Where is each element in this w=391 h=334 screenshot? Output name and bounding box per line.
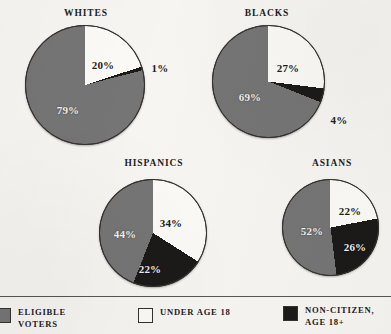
slice-label-under-18: 20% <box>92 59 115 71</box>
slice-label-eligible-voters: 52% <box>301 225 324 237</box>
pie-blacks: 27% 69% <box>212 25 325 138</box>
slice-label-non-citizen: 1% <box>152 62 169 74</box>
legend-swatch-black <box>283 306 298 321</box>
legend-label-under-age-18: UNDER AGE 18 <box>160 307 231 319</box>
legend-swatch-gray <box>0 308 11 323</box>
slice-label-under-18: 27% <box>277 62 300 74</box>
pie-slices-asians <box>282 179 379 276</box>
legend-label-non-citizen: NON-CITIZEN, AGE 18+ <box>305 305 374 328</box>
slice-label-under-18: 22% <box>339 205 362 217</box>
legend-label-eligible-voters: ELIGIBLE VOTERS <box>18 307 66 330</box>
legend-item-eligible-voters: ELIGIBLE VOTERS <box>0 307 66 330</box>
slice-label-under-18: 34% <box>160 217 183 229</box>
pie-slices-blacks <box>212 25 325 138</box>
chart-title-whites: WHITES <box>25 8 147 18</box>
pie-whites: 20% 79% <box>25 25 145 145</box>
slice-label-eligible-voters: 44% <box>114 228 137 240</box>
pie-slices-whites <box>25 25 145 145</box>
chart-title-blacks: BLACKS <box>206 8 328 18</box>
slice-label-eligible-voters: 69% <box>239 91 262 103</box>
pie-chart-asians: ASIANS 22% 26% 52% <box>282 158 382 286</box>
demographic-pie-chart-figure: WHITES 20% 79% 1% BLACKS 27% 69% 4% HISP… <box>0 0 391 334</box>
slice-label-non-citizen: 26% <box>344 241 367 253</box>
chart-title-asians: ASIANS <box>282 158 382 168</box>
pie-asians: 22% 26% 52% <box>282 179 379 276</box>
legend-swatch-white <box>138 308 153 323</box>
pie-chart-whites: WHITES 20% 79% 1% <box>25 6 147 148</box>
legend-item-under-age-18: UNDER AGE 18 <box>138 307 231 323</box>
pie-chart-blacks: BLACKS 27% 69% 4% <box>212 6 334 148</box>
chart-title-hispanics: HISPANICS <box>98 158 210 168</box>
legend-item-non-citizen: NON-CITIZEN, AGE 18+ <box>283 305 374 328</box>
legend-divider <box>0 296 391 297</box>
legend: ELIGIBLE VOTERS UNDER AGE 18 NON-CITIZEN… <box>0 303 391 334</box>
slice-label-non-citizen: 22% <box>139 263 162 275</box>
pie-hispanics: 34% 22% 44% <box>99 179 207 287</box>
slice-label-non-citizen: 4% <box>331 114 348 126</box>
slice-label-eligible-voters: 79% <box>57 104 80 116</box>
pie-chart-hispanics: HISPANICS 34% 22% 44% <box>98 158 210 290</box>
